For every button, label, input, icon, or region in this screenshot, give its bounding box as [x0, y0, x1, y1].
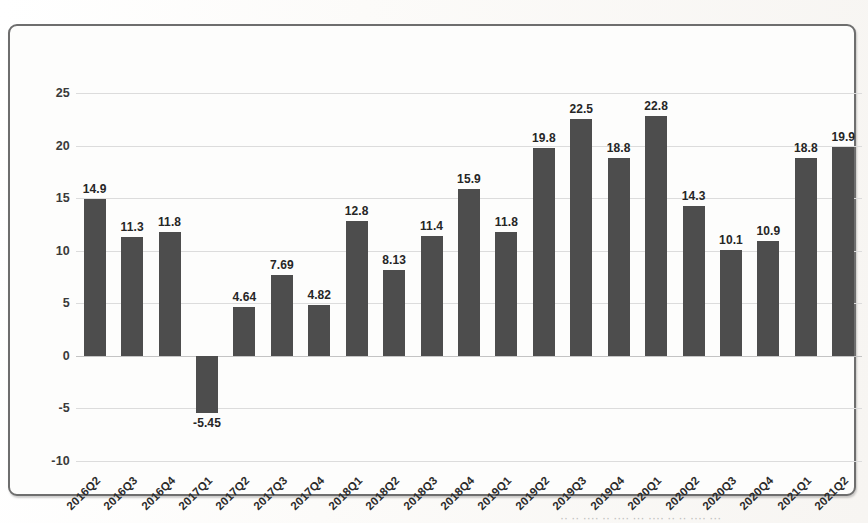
bar-value-label: 15.9	[457, 172, 481, 186]
bar[interactable]	[458, 189, 480, 356]
x-axis-tick-label: 2017Q2	[214, 474, 252, 512]
bar-group[interactable]: 19.8	[525, 93, 562, 461]
bar-value-label: 10.9	[757, 224, 781, 238]
bar-value-label: 14.3	[682, 189, 706, 203]
bar-value-label: 18.8	[607, 141, 631, 155]
bar-group[interactable]: 11.8	[488, 93, 525, 461]
bar-group[interactable]: 12.8	[338, 93, 375, 461]
x-axis-tick-label: 2021Q2	[813, 474, 851, 512]
bar-group[interactable]: 14.3	[675, 93, 712, 461]
bar-value-label: 10.1	[719, 233, 743, 247]
y-axis-tick-label: 15	[36, 191, 70, 205]
bar[interactable]	[495, 232, 517, 356]
bar-value-label: 4.64	[233, 290, 257, 304]
bar-group[interactable]: 14.9	[76, 93, 113, 461]
x-axis-tick-label: 2020Q3	[700, 474, 738, 512]
bar-value-label: 11.8	[495, 215, 518, 229]
bar[interactable]	[121, 237, 143, 356]
x-axis-tick-label: 2021Q1	[775, 474, 813, 512]
x-axis-tick-label: 2019Q4	[588, 474, 626, 512]
bar[interactable]	[832, 147, 854, 356]
bar-group[interactable]: 11.8	[151, 93, 188, 461]
bar[interactable]	[645, 116, 667, 356]
x-axis-tick-label: 2019Q3	[551, 474, 589, 512]
bar[interactable]	[383, 270, 405, 355]
bar[interactable]	[271, 275, 293, 356]
x-axis-tick-label: 2017Q3	[251, 474, 289, 512]
y-axis-tick-label: -10	[36, 454, 70, 468]
bar-group[interactable]: 4.82	[301, 93, 338, 461]
y-axis-tick-label: 25	[36, 86, 70, 100]
page-background: 2520151050-5-10 14.911.311.8-5.454.647.6…	[0, 0, 868, 523]
plot-area: 14.911.311.8-5.454.647.694.8212.88.1311.…	[76, 93, 862, 461]
bar[interactable]	[308, 305, 330, 356]
x-axis-tick-label: 2016Q3	[101, 474, 139, 512]
bar-group[interactable]: 10.1	[712, 93, 749, 461]
caption-strip: ·· ·· ···· ·· ···· ··· ···· ·· ·· ···· ·…	[560, 512, 860, 523]
bar-value-label: 22.8	[644, 99, 668, 113]
bar[interactable]	[757, 241, 779, 356]
y-axis-tick-label: 5	[36, 296, 70, 310]
x-axis-tick-label: 2016Q4	[139, 474, 177, 512]
bar-value-label: 8.13	[382, 253, 406, 267]
x-axis-tick-label: 2017Q4	[289, 474, 327, 512]
x-axis-tick-label: 2016Q2	[64, 474, 102, 512]
x-axis-tick-label: 2019Q1	[476, 474, 514, 512]
x-axis-tick-label: 2018Q3	[401, 474, 439, 512]
bar-group[interactable]: 18.8	[600, 93, 637, 461]
bar-value-label: 19.9	[831, 130, 855, 144]
bar-group[interactable]: 11.4	[413, 93, 450, 461]
bar-group[interactable]: 11.3	[113, 93, 150, 461]
bar[interactable]	[421, 236, 443, 356]
bar-value-label: 19.8	[532, 131, 556, 145]
bar[interactable]	[233, 307, 255, 356]
bar[interactable]	[795, 158, 817, 356]
y-axis: 2520151050-5-10	[30, 93, 70, 461]
bar[interactable]	[533, 148, 555, 356]
y-axis-tick-label: 0	[36, 349, 70, 363]
bar[interactable]	[608, 158, 630, 356]
y-axis-tick-label: 20	[36, 139, 70, 153]
bar[interactable]	[84, 199, 106, 356]
bar[interactable]	[720, 250, 742, 356]
x-axis-tick-label: 2020Q4	[738, 474, 776, 512]
bar-value-label: 14.9	[83, 182, 107, 196]
bar-value-label: 4.82	[307, 288, 331, 302]
y-axis-tick-label: 10	[36, 244, 70, 258]
bar[interactable]	[196, 356, 218, 413]
bar-group[interactable]: 7.69	[263, 93, 300, 461]
bar[interactable]	[346, 221, 368, 356]
x-axis-tick-label: 2018Q2	[363, 474, 401, 512]
x-axis-tick-label: 2020Q2	[663, 474, 701, 512]
bar-group[interactable]: 22.5	[563, 93, 600, 461]
x-axis-tick-label: 2017Q1	[176, 474, 214, 512]
caption-text: ·· ·· ···· ·· ···· ··· ···· ·· ·· ···· ·…	[560, 512, 860, 523]
bar-group[interactable]: 10.9	[750, 93, 787, 461]
bar-group[interactable]: 22.8	[637, 93, 674, 461]
x-axis-tick-label: 2019Q2	[513, 474, 551, 512]
bar[interactable]	[159, 232, 181, 356]
bar[interactable]	[683, 206, 705, 356]
bar[interactable]	[570, 119, 592, 356]
bar-value-label: 11.3	[121, 220, 144, 234]
x-axis-tick-label: 2018Q4	[438, 474, 476, 512]
y-axis-tick-label: -5	[36, 401, 70, 415]
bar-value-label: -5.45	[193, 416, 221, 430]
bar-value-label: 11.4	[420, 219, 443, 233]
bar-group[interactable]: -5.45	[188, 93, 225, 461]
bar-group[interactable]: 18.8	[787, 93, 824, 461]
bar-group[interactable]: 15.9	[450, 93, 487, 461]
bar-value-label: 18.8	[794, 141, 818, 155]
x-axis-tick-label: 2020Q1	[625, 474, 663, 512]
bar-group[interactable]: 8.13	[375, 93, 412, 461]
chart-frame: 2520151050-5-10 14.911.311.8-5.454.647.6…	[8, 24, 856, 496]
bar-value-label: 22.5	[569, 102, 593, 116]
bar-value-label: 11.8	[158, 215, 181, 229]
bar-group[interactable]: 4.64	[226, 93, 263, 461]
bar-value-label: 12.8	[345, 204, 369, 218]
x-axis-tick-label: 2018Q1	[326, 474, 364, 512]
bar-group[interactable]: 19.9	[825, 93, 862, 461]
bar-value-label: 7.69	[270, 258, 294, 272]
